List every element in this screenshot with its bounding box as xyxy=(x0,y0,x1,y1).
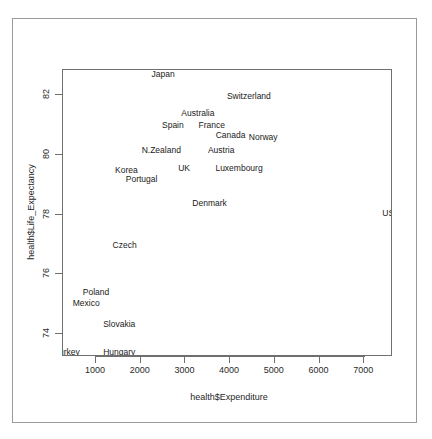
x-axis-tick-label: 2000 xyxy=(130,365,150,375)
data-point-label: Czech xyxy=(113,240,137,249)
data-point-label: Slovakia xyxy=(103,319,135,328)
y-axis-tick-label: 76 xyxy=(41,268,51,278)
data-point-label: Norway xyxy=(249,133,278,142)
data-point-label: Turkey xyxy=(62,348,80,356)
scatter-plot-figure: 7476788082 health$Life_Expectancy 100020… xyxy=(0,0,432,439)
data-point-label: Denmark xyxy=(192,198,226,207)
x-axis-title: health$Expenditure xyxy=(190,392,268,402)
data-point-label: Austria xyxy=(208,146,234,155)
y-axis-title: health$Life_Expectancy xyxy=(26,164,36,260)
y-axis-tick-label: 78 xyxy=(41,209,51,219)
x-axis-tick xyxy=(184,356,185,363)
data-point-label: N.Zealand xyxy=(142,146,181,155)
x-axis-tick xyxy=(319,356,320,363)
x-axis-tick xyxy=(95,356,96,363)
x-axis-tick-label: 6000 xyxy=(308,365,328,375)
data-point-label: UK xyxy=(178,164,190,173)
y-axis-tick-label: 82 xyxy=(41,89,51,99)
x-axis-tick-label: 3000 xyxy=(174,365,194,375)
x-axis-tick xyxy=(363,356,364,363)
x-axis-tick-label: 5000 xyxy=(264,365,284,375)
data-point-label: Poland xyxy=(83,288,109,297)
x-axis-tick-label: 7000 xyxy=(353,365,373,375)
data-point-label: Japan xyxy=(151,70,174,79)
data-point-label: USA xyxy=(382,209,392,218)
y-axis-tick xyxy=(55,333,62,334)
data-point-label: France xyxy=(199,121,225,130)
x-axis-tick-label: 4000 xyxy=(219,365,239,375)
data-point-label: Portugal xyxy=(126,174,158,183)
data-point-label: Hungary xyxy=(103,348,135,356)
x-axis-tick-label: 1000 xyxy=(85,365,105,375)
data-point-label: Mexico xyxy=(73,299,100,308)
data-point-label: Spain xyxy=(162,121,184,130)
y-axis-tick xyxy=(55,214,62,215)
x-axis-tick xyxy=(229,356,230,363)
x-axis-tick xyxy=(140,356,141,363)
y-axis-tick xyxy=(55,94,62,95)
plot-area: JapanSwitzerlandAustraliaSpainFranceCana… xyxy=(62,69,392,356)
data-point-label: Switzerland xyxy=(227,92,271,101)
data-point-label: Canada xyxy=(216,131,246,140)
data-point-label: Luxembourg xyxy=(215,164,262,173)
y-axis-tick xyxy=(55,154,62,155)
y-axis-tick-label: 74 xyxy=(41,328,51,338)
y-axis-tick xyxy=(55,273,62,274)
x-axis-tick xyxy=(274,356,275,363)
y-axis-tick-label: 80 xyxy=(41,149,51,159)
data-point-label: Australia xyxy=(181,109,214,118)
